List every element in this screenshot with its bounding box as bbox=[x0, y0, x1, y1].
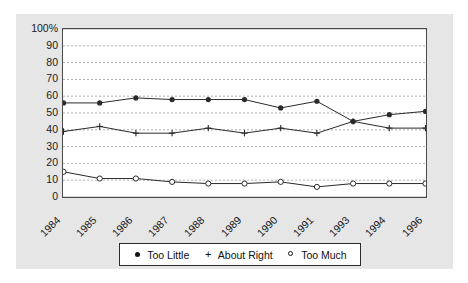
x-axis-tick-label: 1996 bbox=[399, 214, 424, 239]
x-axis-tick-label: 1994 bbox=[363, 214, 388, 239]
data-point bbox=[351, 181, 356, 186]
y-axis-tick-label: 100% bbox=[12, 23, 58, 33]
y-axis-tick-label: 60 bbox=[12, 90, 58, 100]
data-point bbox=[97, 123, 103, 129]
x-axis-tick-label: 1991 bbox=[290, 214, 315, 239]
y-axis-tick-label: 90 bbox=[12, 40, 58, 50]
x-axis-tick-label: 1986 bbox=[109, 214, 134, 239]
data-point bbox=[206, 181, 211, 186]
data-point bbox=[97, 100, 102, 105]
data-point bbox=[278, 125, 284, 131]
data-point bbox=[63, 128, 67, 134]
plot-svg bbox=[63, 29, 426, 197]
x-axis-tick-label: 1985 bbox=[73, 214, 98, 239]
data-point bbox=[314, 184, 319, 189]
x-axis-tick-label: 1990 bbox=[254, 214, 279, 239]
x-axis: 1984198519861987198819891990199119931994… bbox=[62, 199, 427, 245]
x-axis-tick-label: 1987 bbox=[146, 214, 171, 239]
data-point bbox=[242, 97, 247, 102]
data-point bbox=[422, 125, 426, 131]
plus-icon: + bbox=[204, 250, 213, 259]
y-axis-tick-label: 20 bbox=[12, 157, 58, 167]
y-axis-tick-label: 10 bbox=[12, 174, 58, 184]
x-axis-tick-label: 1989 bbox=[218, 214, 243, 239]
data-point bbox=[97, 176, 102, 181]
y-axis-tick-label: 40 bbox=[12, 124, 58, 134]
data-point bbox=[350, 118, 356, 124]
filled-circle-icon bbox=[133, 250, 142, 259]
data-point bbox=[133, 130, 139, 136]
y-axis: 0102030405060708090100% bbox=[10, 28, 58, 198]
x-axis-tick-label: 1988 bbox=[182, 214, 207, 239]
y-axis-tick-label: 50 bbox=[12, 107, 58, 117]
data-point bbox=[314, 130, 320, 136]
legend-item-label: Too Much bbox=[301, 249, 347, 261]
data-point bbox=[387, 112, 392, 117]
legend-item: Too Much bbox=[287, 249, 347, 261]
y-axis-tick-label: 80 bbox=[12, 57, 58, 67]
data-point bbox=[242, 181, 247, 186]
data-point bbox=[170, 179, 175, 184]
chart-legend: Too Little+About RightToo Much bbox=[119, 243, 361, 266]
data-point bbox=[206, 97, 211, 102]
data-point bbox=[423, 181, 426, 186]
data-point bbox=[63, 100, 66, 105]
y-axis-tick-label: 70 bbox=[12, 73, 58, 83]
legend-item: Too Little bbox=[133, 249, 189, 261]
x-axis-tick-label: 1993 bbox=[327, 214, 352, 239]
data-point bbox=[314, 99, 319, 104]
open-circle-icon bbox=[287, 250, 296, 259]
data-point bbox=[133, 95, 138, 100]
legend-item: +About Right bbox=[204, 249, 273, 261]
data-point bbox=[170, 97, 175, 102]
chart-screenshot: 0102030405060708090100% 1984198519861987… bbox=[0, 0, 468, 283]
data-point bbox=[205, 125, 211, 131]
y-axis-tick-label: 0 bbox=[12, 191, 58, 201]
y-axis-tick-label: 30 bbox=[12, 141, 58, 151]
data-point bbox=[387, 181, 392, 186]
data-point bbox=[63, 169, 66, 174]
legend-item-label: Too Little bbox=[147, 249, 189, 261]
data-point bbox=[278, 179, 283, 184]
data-point bbox=[169, 130, 175, 136]
data-point bbox=[386, 125, 392, 131]
plot-area bbox=[62, 28, 427, 198]
data-point bbox=[241, 130, 247, 136]
legend-item-label: About Right bbox=[218, 249, 273, 261]
data-point bbox=[278, 105, 283, 110]
data-point bbox=[133, 176, 138, 181]
